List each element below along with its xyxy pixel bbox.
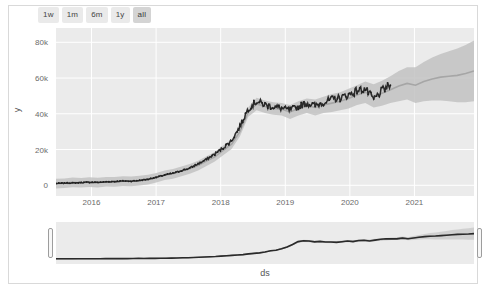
y-tick-label: 0 <box>22 181 52 190</box>
main-plot-area[interactable] <box>56 28 474 196</box>
forecast-chart-app: 1w 1m 6m 1y all y 020k40k60k80k 20162017… <box>0 0 491 292</box>
range-slider-svg <box>56 222 474 264</box>
range-button-1w[interactable]: 1w <box>38 7 59 23</box>
x-tick-label: 2020 <box>341 198 359 207</box>
x-tick-label: 2019 <box>276 198 294 207</box>
horizontal-gridlines <box>56 42 474 185</box>
range-slider[interactable] <box>56 222 474 264</box>
x-tick-label: 2021 <box>406 198 424 207</box>
main-plot-svg <box>56 28 474 196</box>
range-slider-band <box>56 227 474 259</box>
y-tick-label: 60k <box>22 74 52 83</box>
y-tick-label: 40k <box>22 109 52 118</box>
y-tick-label: 80k <box>22 38 52 47</box>
x-axis-title: ds <box>56 268 474 278</box>
x-axis-tick-labels: 201620172018201920202021 <box>56 198 474 210</box>
range-button-all[interactable]: all <box>133 7 152 23</box>
x-tick-label: 2018 <box>212 198 230 207</box>
range-button-1y[interactable]: 1y <box>111 7 130 23</box>
observed-line <box>56 83 390 184</box>
x-tick-label: 2017 <box>147 198 165 207</box>
y-axis-title: y <box>12 103 22 117</box>
x-tick-label: 2016 <box>83 198 101 207</box>
range-slider-right-handle[interactable] <box>477 228 482 258</box>
range-button-1m[interactable]: 1m <box>62 7 84 23</box>
uncertainty-band <box>56 41 474 189</box>
range-slider-left-handle[interactable] <box>48 228 53 258</box>
range-selector: 1w 1m 6m 1y all <box>38 7 151 23</box>
y-tick-label: 20k <box>22 145 52 154</box>
range-button-6m[interactable]: 6m <box>86 7 108 23</box>
